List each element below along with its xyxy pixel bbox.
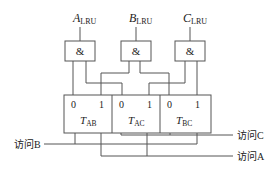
trigger-bc-one: 1 xyxy=(195,99,200,110)
trigger-ac-zero: 0 xyxy=(119,99,124,110)
input-label-a: ALRU xyxy=(72,11,97,26)
gate-symbol-b: & xyxy=(132,45,141,57)
trigger-bc-zero: 0 xyxy=(167,99,172,110)
wire-b1 xyxy=(101,61,129,95)
input-label-c: CLRU xyxy=(183,11,207,26)
trigger-ab-zero: 0 xyxy=(71,99,76,110)
wire-c1 xyxy=(149,61,185,95)
access-b-label: 访问B xyxy=(14,138,41,150)
access-a-label: 访问A xyxy=(237,150,265,162)
trigger-ac-label: TAC xyxy=(128,114,145,128)
gate-symbol-c: & xyxy=(186,45,195,57)
trigger-bc-label: TBC xyxy=(176,114,192,128)
access-c-label: 访问C xyxy=(237,129,264,141)
trigger-ab-label: TAB xyxy=(80,114,97,128)
gate-symbol-a: & xyxy=(76,45,85,57)
input-label-b: BLRU xyxy=(129,11,153,26)
trigger-ac-one: 1 xyxy=(147,99,152,110)
trigger-ab-one: 1 xyxy=(99,99,104,110)
lru-circuit-diagram: ALRU BLRU CLRU & & & 0 1 TAB 0 1 TAC 0 1… xyxy=(0,0,279,170)
wire-b2 xyxy=(140,61,169,95)
wire-a2 xyxy=(86,61,122,95)
